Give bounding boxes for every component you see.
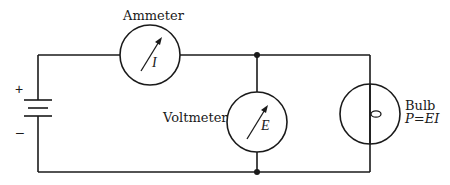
ammeter-symbol: I [152,56,157,70]
junction-node-bottom [254,169,260,175]
bulb-icon [340,84,400,144]
voltmeter-label: Voltmeter [163,111,228,124]
voltmeter-icon [227,92,287,152]
bulb-formula: P=EI [405,112,439,125]
ammeter-label: Ammeter [123,9,184,22]
battery-icon [24,100,52,124]
voltmeter-symbol: E [261,119,270,133]
junction-node-top [254,52,260,58]
circuit-diagram [0,0,450,185]
battery-negative-sign: – [16,125,24,139]
ammeter-icon [120,25,180,85]
battery-positive-sign: + [15,82,23,96]
